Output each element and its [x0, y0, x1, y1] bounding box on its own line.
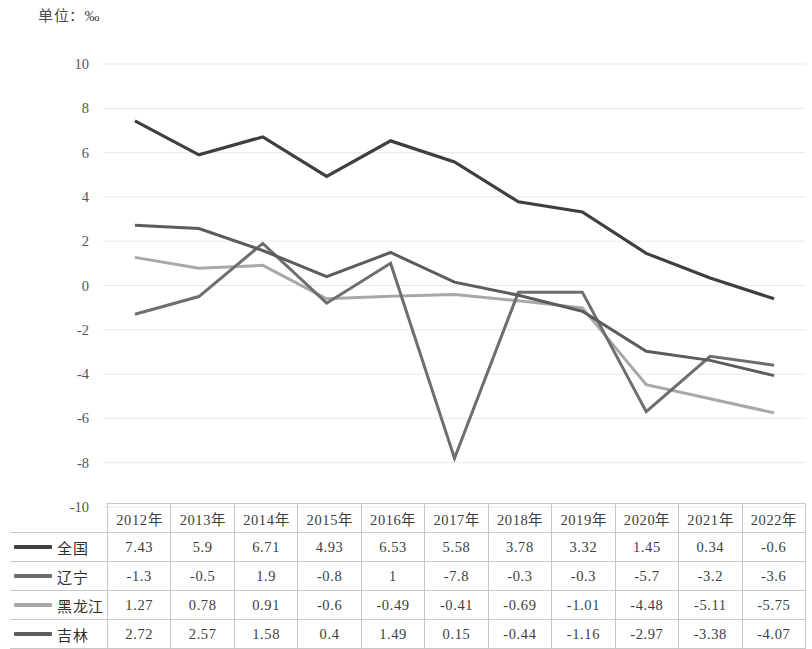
- table-column-header: 2020年: [615, 504, 678, 533]
- table-cell: -1.16: [552, 620, 615, 649]
- table-cell: -1.3: [108, 562, 171, 591]
- table-cell: 1: [361, 562, 424, 591]
- table-column-header: 2021年: [679, 504, 742, 533]
- legend-series-label: 辽宁: [57, 566, 88, 587]
- table-cell: -1.01: [552, 591, 615, 620]
- table-cell: 0.4: [298, 620, 361, 649]
- legend-series-label: 全国: [57, 537, 88, 558]
- table-column-header: 2015年: [298, 504, 361, 533]
- table-column-header: 2019年: [552, 504, 615, 533]
- table-cell: -4.48: [615, 591, 678, 620]
- table-cell: -7.8: [425, 562, 488, 591]
- table-cell: 0.78: [171, 591, 234, 620]
- y-axis-tick-label: 4: [82, 189, 90, 205]
- table-cell: 0.34: [679, 533, 742, 562]
- table-corner-cell: [10, 504, 108, 533]
- table-cell: 1.45: [615, 533, 678, 562]
- y-axis-tick-label: 0: [82, 278, 89, 294]
- table-cell: -0.6: [742, 533, 805, 562]
- y-axis-tick-label: -8: [77, 455, 89, 471]
- y-axis-tick-label: 10: [75, 56, 90, 72]
- table-body: 全国7.435.96.714.936.535.583.783.321.450.3…: [10, 533, 806, 649]
- series-line-吉林: [135, 225, 774, 375]
- legend-series-label: 吉林: [57, 624, 88, 645]
- table-cell: 5.9: [171, 533, 234, 562]
- y-axis-tick-label: -2: [77, 322, 89, 338]
- table-cell: -5.11: [679, 591, 742, 620]
- line-chart-canvas: 1086420-2-4-6-8-10: [0, 0, 812, 512]
- table-column-header: 2012年: [108, 504, 171, 533]
- chart-page: 单位：‰ 1086420-2-4-6-8-10 2012年2013年2014年2…: [0, 0, 812, 649]
- table-cell: 2.57: [171, 620, 234, 649]
- series-line-全国: [135, 121, 774, 299]
- table-cell: -5.75: [742, 591, 805, 620]
- table-cell: 1.58: [234, 620, 297, 649]
- data-table-container: 2012年2013年2014年2015年2016年2017年2018年2019年…: [10, 503, 806, 649]
- table-cell: 4.93: [298, 533, 361, 562]
- table-cell: 3.78: [488, 533, 551, 562]
- table-row: 全国7.435.96.714.936.535.583.783.321.450.3…: [10, 533, 806, 562]
- table-cell: 1.27: [108, 591, 171, 620]
- table-cell: -5.7: [615, 562, 678, 591]
- table-cell: 7.43: [108, 533, 171, 562]
- legend-entry: 辽宁: [10, 562, 108, 591]
- table-cell: -0.41: [425, 591, 488, 620]
- table-cell: 5.58: [425, 533, 488, 562]
- table-cell: 3.32: [552, 533, 615, 562]
- legend-line-swatch-icon: [14, 632, 52, 636]
- table-column-header: 2014年: [234, 504, 297, 533]
- table-column-header: 2013年: [171, 504, 234, 533]
- gridlines: 1086420-2-4-6-8-10: [70, 56, 806, 512]
- table-cell: 2.72: [108, 620, 171, 649]
- table-cell: -0.8: [298, 562, 361, 591]
- series-lines: [135, 121, 774, 458]
- legend-line-swatch-icon: [14, 574, 52, 578]
- legend-entry: 吉林: [10, 620, 108, 649]
- table-cell: -0.44: [488, 620, 551, 649]
- table-header: 2012年2013年2014年2015年2016年2017年2018年2019年…: [10, 504, 806, 533]
- legend-line-swatch-icon: [14, 603, 52, 607]
- y-axis-tick-label: -6: [77, 410, 89, 426]
- table-column-header: 2016年: [361, 504, 424, 533]
- legend-entry: 全国: [10, 533, 108, 562]
- y-axis-tick-label: 6: [82, 145, 89, 161]
- table-cell: 1.49: [361, 620, 424, 649]
- table-cell: -0.49: [361, 591, 424, 620]
- table-cell: 6.53: [361, 533, 424, 562]
- legend-series-label: 黑龙江: [57, 595, 104, 616]
- table-column-header: 2022年: [742, 504, 805, 533]
- table-cell: -3.6: [742, 562, 805, 591]
- y-axis-tick-label: -4: [77, 366, 90, 382]
- table-cell: -0.69: [488, 591, 551, 620]
- table-header-row: 2012年2013年2014年2015年2016年2017年2018年2019年…: [10, 504, 806, 533]
- table-cell: -2.97: [615, 620, 678, 649]
- series-line-辽宁: [135, 243, 774, 458]
- table-cell: 0.15: [425, 620, 488, 649]
- table-cell: -0.3: [488, 562, 551, 591]
- table-cell: -3.38: [679, 620, 742, 649]
- table-cell: 0.91: [234, 591, 297, 620]
- line-chart: 1086420-2-4-6-8-10: [0, 0, 812, 512]
- data-table: 2012年2013年2014年2015年2016年2017年2018年2019年…: [10, 503, 806, 649]
- legend-entry: 黑龙江: [10, 591, 108, 620]
- y-axis-tick-label: 2: [82, 233, 89, 249]
- table-cell: 6.71: [234, 533, 297, 562]
- table-row: 辽宁-1.3-0.51.9-0.81-7.8-0.3-0.3-5.7-3.2-3…: [10, 562, 806, 591]
- table-cell: -3.2: [679, 562, 742, 591]
- table-cell: -4.07: [742, 620, 805, 649]
- legend-line-swatch-icon: [14, 545, 52, 549]
- table-cell: 1.9: [234, 562, 297, 591]
- table-cell: -0.5: [171, 562, 234, 591]
- table-cell: -0.6: [298, 591, 361, 620]
- table-row: 吉林2.722.571.580.41.490.15-0.44-1.16-2.97…: [10, 620, 806, 649]
- table-row: 黑龙江1.270.780.91-0.6-0.49-0.41-0.69-1.01-…: [10, 591, 806, 620]
- y-axis-tick-label: 8: [82, 100, 89, 116]
- table-cell: -0.3: [552, 562, 615, 591]
- table-column-header: 2018年: [488, 504, 551, 533]
- table-column-header: 2017年: [425, 504, 488, 533]
